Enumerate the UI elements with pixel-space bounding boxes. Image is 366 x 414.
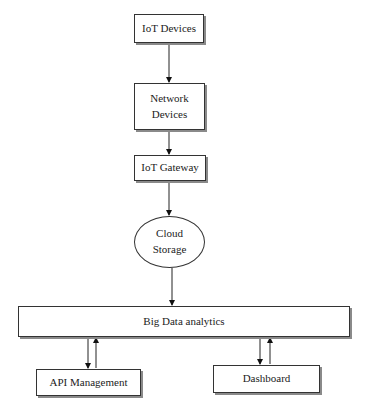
node-api-management: API Management [36,369,141,396]
node-big-data-analytics: Big Data analytics [18,306,350,337]
node-label: Dashboard [243,371,291,387]
node-label-line2: Storage [153,242,187,258]
node-network-devices: Network Devices [134,83,205,130]
node-label-line2: Devices [152,107,187,123]
node-label: IoT Gateway [141,160,199,176]
node-dashboard: Dashboard [213,365,320,393]
node-cloud-storage: Cloud Storage [134,216,205,268]
node-label: IoT Devices [142,21,196,37]
node-label-line1: Cloud [156,226,183,242]
node-iot-devices: IoT Devices [134,14,204,43]
connector-arrows [0,0,366,414]
node-label: API Management [50,375,128,391]
node-label: Big Data analytics [143,314,224,330]
node-label-line1: Network [150,91,189,107]
node-iot-gateway: IoT Gateway [134,155,206,181]
